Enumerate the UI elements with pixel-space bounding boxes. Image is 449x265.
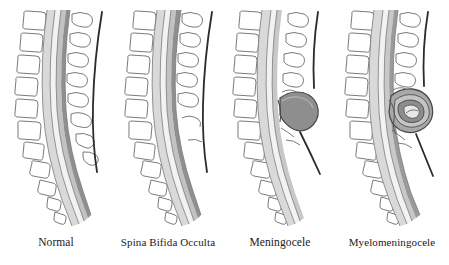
normal-spine-diagram [0,0,112,232]
occulta-spine-diagram [112,0,224,232]
skin-line-lower [416,134,433,176]
defect-edge-lower [281,128,294,137]
panel-occulta: Spina Bifida Occulta [112,0,224,265]
panel-normal: Normal [0,0,112,265]
skin-line-upper [314,12,319,88]
panel-meningocele: Meningocele [224,0,336,265]
skin-line [203,12,212,172]
skin-line [93,12,102,172]
skin-line-upper [424,12,429,86]
panel-label-normal: Normal [0,236,112,248]
skin-line-lower [300,132,320,174]
myelomeningocele-spine-diagram [336,0,448,232]
defect-open-arch [182,116,201,127]
meningocele-sac [280,92,318,131]
panel-myelomeningocele: Myelomeningocele [336,0,448,265]
spinous-processes [177,13,203,143]
spina-bifida-figure: Normal [0,0,449,265]
myelomeningocele-sac [389,89,433,133]
panel-label-myelomeningocele: Myelomeningocele [336,236,448,248]
panel-label-occulta: Spina Bifida Occulta [112,236,224,248]
panel-label-meningocele: Meningocele [224,236,336,248]
meningocele-spine-diagram [224,0,336,232]
